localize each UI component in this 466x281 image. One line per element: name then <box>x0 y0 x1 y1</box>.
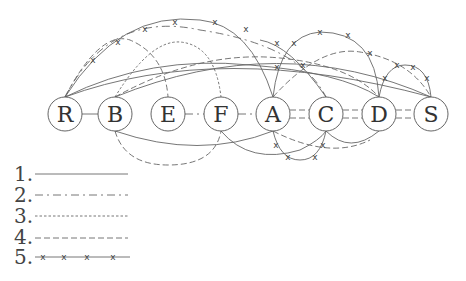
svg-text:x: x <box>142 24 148 34</box>
svg-text:D: D <box>370 102 388 127</box>
legend-item-5: 5. x x x x <box>14 245 130 269</box>
svg-text:A: A <box>264 102 282 127</box>
edge-b-a-solid-lower <box>115 131 273 146</box>
edge-r-s-solid <box>65 69 431 98</box>
edge-r-a-crossed <box>65 19 273 97</box>
svg-text:x: x <box>115 37 121 47</box>
edge-r-c-dashdot <box>65 26 326 97</box>
node-s: S <box>414 97 448 131</box>
edge-c-d-solid-lower <box>326 131 379 143</box>
node-b: B <box>98 97 132 131</box>
nodes: R B E F A C D S <box>48 97 448 131</box>
svg-text:C: C <box>318 102 335 127</box>
svg-text:x: x <box>285 152 291 162</box>
svg-text:x: x <box>394 60 400 70</box>
svg-text:5.: 5. <box>14 245 33 269</box>
svg-text:x: x <box>110 252 116 262</box>
svg-text:x: x <box>172 17 178 27</box>
svg-text:x: x <box>367 48 373 58</box>
edge-a-c-crossed-lower <box>273 131 326 160</box>
svg-text:x: x <box>61 252 67 262</box>
node-c: C <box>309 97 343 131</box>
edge-a-d-crossed <box>273 32 379 97</box>
svg-text:x: x <box>424 73 430 83</box>
svg-text:x: x <box>410 62 416 72</box>
svg-text:E: E <box>160 102 176 127</box>
node-d: D <box>362 97 396 131</box>
svg-text:x: x <box>345 30 351 40</box>
svg-text:x: x <box>243 24 249 34</box>
svg-text:x: x <box>40 252 46 262</box>
legend: 1. 2. 3. 4. 5. x x x x <box>14 162 130 269</box>
node-a: A <box>256 97 290 131</box>
svg-text:x: x <box>90 55 96 65</box>
svg-text:x: x <box>274 38 280 48</box>
edges-lower <box>115 131 379 165</box>
svg-text:x: x <box>317 27 323 37</box>
svg-text:x: x <box>300 60 306 70</box>
node-e: E <box>151 97 185 131</box>
cross-marks: x x x x x x x x x x x x x x x x x x x x … <box>90 17 430 162</box>
svg-text:x: x <box>274 62 280 72</box>
svg-text:x: x <box>212 17 218 27</box>
edge-a-s-dashed <box>273 51 431 97</box>
svg-text:x: x <box>84 252 90 262</box>
graph-diagram: x x x x x x x x x x x x x x x x x x x x … <box>0 0 466 281</box>
svg-text:B: B <box>107 102 123 127</box>
svg-text:F: F <box>213 102 228 127</box>
node-r: R <box>48 97 82 131</box>
svg-text:x: x <box>291 38 297 48</box>
svg-text:x: x <box>320 140 326 150</box>
node-f: F <box>204 97 238 131</box>
svg-text:x: x <box>273 140 279 150</box>
svg-text:x: x <box>382 73 388 83</box>
svg-text:x: x <box>312 152 318 162</box>
svg-text:R: R <box>57 102 75 127</box>
svg-text:S: S <box>423 102 438 127</box>
